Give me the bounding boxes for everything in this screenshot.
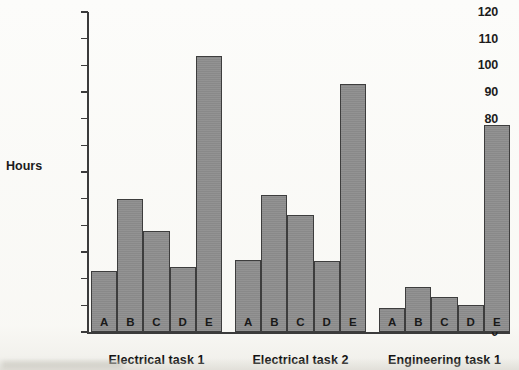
bar-category-label: A [92, 317, 116, 329]
bar-category-label: A [380, 317, 404, 329]
bar: D [314, 261, 340, 332]
y-axis-tick [81, 305, 88, 306]
bar: E [484, 125, 510, 332]
y-axis-tick [81, 38, 88, 39]
y-axis-tick [81, 171, 88, 172]
bar: D [458, 305, 484, 332]
bar: B [117, 199, 143, 332]
group-label: Engineering task 1 [379, 353, 510, 367]
bar: A [91, 271, 117, 332]
bar: E [340, 84, 366, 332]
y-axis-tick [81, 118, 88, 119]
y-axis-tick [81, 91, 88, 92]
y-axis-tick-label: 100 [464, 59, 498, 72]
y-axis-tick [81, 278, 88, 279]
bar-category-label: C [144, 317, 168, 329]
y-axis-tick [81, 11, 88, 12]
bar-category-label: A [236, 317, 260, 329]
group-label: Electrical task 2 [235, 353, 366, 367]
y-axis-tick [81, 331, 88, 332]
bar: A [235, 260, 261, 332]
group-label: Electrical task 1 [91, 353, 222, 367]
y-axis-tick-label: 110 [464, 33, 498, 46]
y-axis-tick [81, 251, 88, 252]
plot-area: 0102030405060708090100110120 ABCDEABCDEA… [88, 12, 510, 332]
y-axis-tick-label: 90 [464, 86, 498, 99]
bar: D [170, 267, 196, 332]
bar: C [287, 215, 313, 332]
y-axis-tick [81, 145, 88, 146]
y-axis-tick [81, 65, 88, 66]
bar-category-label: B [118, 317, 142, 329]
bar: E [196, 56, 222, 332]
bar: A [379, 308, 405, 332]
bar: B [405, 287, 431, 332]
y-axis-tick [81, 225, 88, 226]
bar-category-label: E [341, 317, 365, 329]
bar-category-label: D [315, 317, 339, 329]
y-axis-tick-label: 80 [464, 113, 498, 126]
y-axis-title: Hours [6, 160, 54, 173]
x-axis-line [87, 332, 510, 334]
bar-category-label: C [432, 317, 456, 329]
bar-category-label: D [459, 317, 483, 329]
y-axis-tick-label: 120 [464, 6, 498, 19]
bar-category-label: D [171, 317, 195, 329]
bar-category-label: B [406, 317, 430, 329]
bar: C [143, 231, 169, 332]
bar-category-label: C [288, 317, 312, 329]
bar: C [431, 297, 457, 332]
bar-category-label: E [485, 317, 509, 329]
bar-category-label: B [262, 317, 286, 329]
bar-category-label: E [197, 317, 221, 329]
bar-chart-figure: Hours 0102030405060708090100110120 ABCDE… [0, 0, 519, 370]
bar: B [261, 195, 287, 332]
y-axis-tick [81, 198, 88, 199]
